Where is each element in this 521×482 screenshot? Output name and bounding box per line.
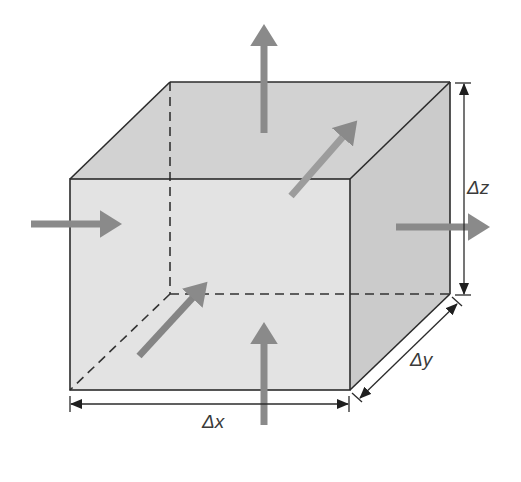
- label-dx: Δx: [202, 412, 224, 431]
- label-dz: Δz: [467, 178, 489, 197]
- label-dy: Δy: [410, 350, 432, 369]
- cube-front-face: [70, 179, 350, 390]
- control-volume-diagram: [0, 0, 521, 482]
- dimension-dx: [70, 396, 349, 412]
